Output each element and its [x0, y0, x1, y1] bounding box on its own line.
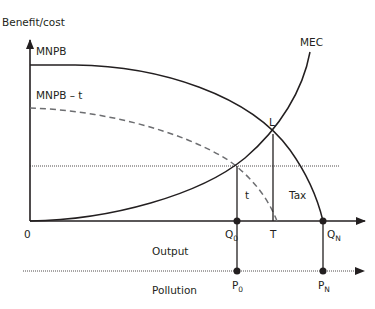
- q0-label: Q0: [225, 229, 238, 240]
- region-tax-label: Tax: [289, 190, 306, 201]
- p0-label-sub: 0: [238, 285, 243, 294]
- q0-label-sub: 0: [233, 234, 238, 243]
- qn-label-sub: N: [335, 234, 341, 243]
- y-axis-label: Benefit/cost: [2, 17, 65, 28]
- t-point-label: T: [270, 229, 276, 240]
- region-t-label: t: [245, 190, 249, 201]
- qn-label: QN: [327, 229, 341, 240]
- origin-label: 0: [24, 229, 31, 240]
- pn-label-sub: N: [324, 285, 330, 294]
- pn-dot: [320, 268, 327, 275]
- qn-dot: [320, 218, 327, 225]
- output-axis-label: Output: [152, 246, 188, 257]
- mnpb-label: MNPB: [36, 46, 66, 57]
- point-l-label: L: [269, 117, 275, 128]
- p0-label: P0: [232, 280, 243, 291]
- mnpb-t-curve: [30, 108, 277, 221]
- mnpb-t-label: MNPB – t: [36, 90, 83, 101]
- pn-label: PN: [318, 280, 330, 291]
- p0-dot: [234, 268, 241, 275]
- mec-label: MEC: [300, 37, 323, 48]
- q0-dot: [234, 218, 241, 225]
- pollution-axis-label: Pollution: [152, 285, 197, 296]
